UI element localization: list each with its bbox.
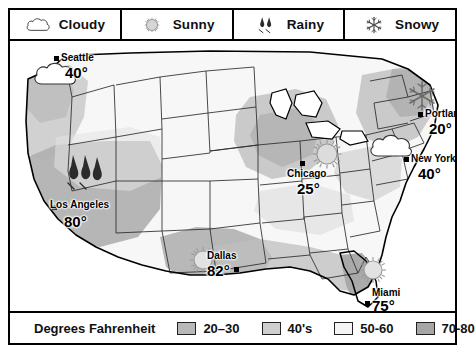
legend-label-rainy: Rainy bbox=[287, 17, 324, 32]
temperature-legend-title: Degrees Fahrenheit bbox=[34, 321, 155, 336]
legend-label-snowy: Snowy bbox=[395, 17, 439, 32]
city-dot-chicago bbox=[300, 161, 305, 166]
temp-label-50-60: 50-60 bbox=[360, 321, 393, 336]
temp-band-20-30[interactable]: 20–30 bbox=[177, 321, 239, 336]
temp-swatch-20-30 bbox=[177, 322, 196, 335]
weather-condition-legend: Cloudy bbox=[10, 10, 455, 41]
city-name-los-angeles: Los Angeles bbox=[50, 199, 109, 210]
city-dot-new-york bbox=[404, 157, 409, 162]
city-name-chicago: Chicago bbox=[287, 168, 326, 179]
city-temp-portland: 20° bbox=[429, 120, 452, 137]
city-name-new-york: New York bbox=[411, 153, 455, 164]
cloud-icon bbox=[25, 14, 51, 36]
legend-item-sunny[interactable]: Sunny bbox=[122, 10, 234, 39]
city-temp-new-york: 40° bbox=[418, 165, 441, 182]
raindrops-icon bbox=[253, 14, 279, 36]
city-dot-dallas bbox=[234, 267, 239, 272]
temp-label-40s: 40's bbox=[288, 321, 313, 336]
temp-band-40s[interactable]: 40's bbox=[262, 321, 313, 336]
temp-swatch-40s bbox=[262, 322, 281, 335]
legend-label-cloudy: Cloudy bbox=[59, 17, 105, 32]
city-temp-dallas: 82° bbox=[207, 262, 230, 279]
sun-icon bbox=[139, 14, 165, 36]
temp-label-70-80: 70-80 bbox=[442, 321, 475, 336]
legend-item-rainy[interactable]: Rainy bbox=[234, 10, 346, 39]
legend-label-sunny: Sunny bbox=[173, 17, 215, 32]
temp-swatch-70-80 bbox=[416, 322, 435, 335]
city-name-portland: Portland bbox=[425, 108, 455, 119]
temp-label-20-30: 20–30 bbox=[203, 321, 239, 336]
temp-swatch-50-60 bbox=[334, 322, 353, 335]
temp-band-50-60[interactable]: 50-60 bbox=[334, 321, 393, 336]
city-temp-seattle: 40° bbox=[65, 64, 88, 81]
city-dot-seattle bbox=[54, 56, 59, 61]
city-temp-los-angeles: 80° bbox=[64, 213, 87, 230]
map-frame: Cloudy bbox=[8, 8, 457, 345]
city-name-seattle: Seattle bbox=[61, 52, 94, 63]
legend-item-snowy[interactable]: Snowy bbox=[345, 10, 455, 39]
city-temp-chicago: 25° bbox=[297, 180, 320, 197]
legend-item-cloudy[interactable]: Cloudy bbox=[10, 10, 122, 39]
raindrops-icon bbox=[64, 153, 112, 193]
sun-icon bbox=[356, 253, 390, 287]
city-dot-portland bbox=[418, 112, 423, 117]
city-dot-miami bbox=[365, 301, 370, 306]
temperature-legend: Degrees Fahrenheit 20–30 40's 50-60 70-8… bbox=[10, 311, 455, 343]
temp-band-70-80[interactable]: 70-80 bbox=[416, 321, 475, 336]
map-canvas[interactable]: Seattle 40° Los Angeles bbox=[10, 41, 455, 313]
snowflake-icon bbox=[361, 14, 387, 36]
city-name-dallas: Dallas bbox=[207, 250, 236, 261]
